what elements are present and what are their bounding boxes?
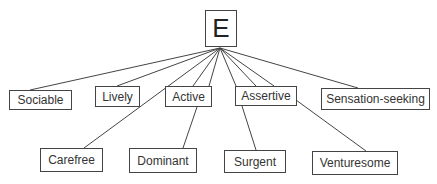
node-assertive: Assertive xyxy=(235,86,297,106)
node-carefree: Carefree xyxy=(40,148,103,172)
edge-e-active xyxy=(193,48,220,86)
node-sociable: Sociable xyxy=(9,90,72,110)
edge-assertive-surgent xyxy=(242,106,256,150)
node-dominant: Dominant xyxy=(129,148,197,173)
edge-active-dominant xyxy=(183,107,197,148)
trait-hierarchy-diagram: E Sociable Lively Active Assertive Sensa… xyxy=(0,0,437,184)
node-lively: Lively xyxy=(95,86,140,107)
node-active: Active xyxy=(165,86,212,107)
node-venturesome: Venturesome xyxy=(312,151,398,175)
node-surgent: Surgent xyxy=(224,150,286,173)
edge-e-active xyxy=(209,48,220,86)
node-sensation-seeking: Sensation-seeking xyxy=(321,88,430,110)
edge-e-sensation-seeking xyxy=(220,48,358,88)
root-node-e: E xyxy=(205,10,237,47)
